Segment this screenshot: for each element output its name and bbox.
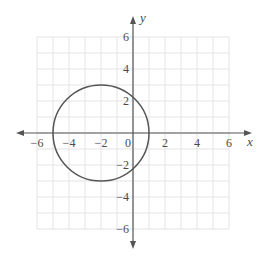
y-axis-down-arrow-icon	[130, 241, 136, 249]
x-tick-label: 4	[194, 136, 200, 150]
x-tick-label: 0	[125, 136, 131, 150]
x-tick-label: −2	[95, 136, 108, 150]
y-axis-label: y	[138, 10, 146, 25]
y-tick-label: 6	[123, 30, 129, 44]
x-tick-label: 6	[226, 136, 232, 150]
coordinate-plane: xy−6−4−20246−6−4−2246	[0, 0, 263, 259]
tick-labels: xy−6−4−20246−6−4−2246	[31, 10, 253, 236]
x-tick-label: 2	[162, 136, 168, 150]
x-axis-label: x	[246, 134, 253, 149]
y-tick-label: 2	[123, 94, 129, 108]
y-tick-label: −4	[116, 190, 129, 204]
y-tick-label: 4	[123, 62, 129, 76]
y-tick-label: −6	[116, 222, 129, 236]
axes	[16, 16, 252, 249]
x-axis-left-arrow-icon	[16, 130, 24, 136]
y-tick-label: −2	[116, 158, 129, 172]
y-axis-up-arrow-icon	[130, 16, 136, 24]
x-tick-label: −4	[63, 136, 76, 150]
x-tick-label: −6	[31, 136, 44, 150]
